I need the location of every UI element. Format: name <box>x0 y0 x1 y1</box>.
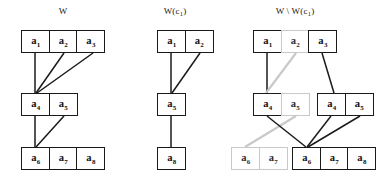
node-cell-subscript: 1 <box>37 41 41 49</box>
node-cell-label: a1 <box>31 36 40 47</box>
node-cell-label: a1 <box>263 36 272 47</box>
node-cell-a5[interactable]: a5 <box>281 93 310 116</box>
node-cell-a1[interactable]: a1 <box>157 30 186 53</box>
panel-title-w: W <box>0 6 126 16</box>
node-group-d-top: a1a2a3 <box>253 30 337 53</box>
node-cell-subscript: 3 <box>324 41 328 49</box>
node-group-d-bot-left: a6a7 <box>231 147 288 170</box>
node-cell-a2[interactable]: a2 <box>49 30 78 53</box>
node-cell-subscript: 8 <box>363 158 367 166</box>
node-cell-a3[interactable]: a3 <box>308 30 337 53</box>
node-group-d-mid-left: a4a5 <box>253 93 310 116</box>
node-cell-a6[interactable]: a6 <box>292 147 321 170</box>
node-cell-subscript: 4 <box>37 104 41 112</box>
node-cell-label: a7 <box>59 153 68 164</box>
panel-title-wc1-sub: 1 <box>180 10 183 17</box>
node-cell-a7[interactable]: a7 <box>259 147 288 170</box>
edge-a5-left-to-a6-left <box>245 116 296 147</box>
node-cell-a5[interactable]: a5 <box>345 93 374 116</box>
node-cell-subscript: 4 <box>333 104 337 112</box>
node-cell-subscript: 5 <box>173 104 177 112</box>
node-cell-a6[interactable]: a6 <box>21 147 50 170</box>
edge-a4-left-to-a6-right <box>267 116 306 147</box>
edge-a2-to-a4-left <box>266 53 296 93</box>
node-cell-a4[interactable]: a4 <box>253 93 282 116</box>
node-cell-label: a2 <box>291 36 300 47</box>
node-cell-a7[interactable]: a7 <box>320 147 349 170</box>
node-cell-label: a1 <box>167 36 176 47</box>
node-cell-subscript: 5 <box>296 104 300 112</box>
node-cell-a2[interactable]: a2 <box>281 30 310 53</box>
lattice-diagram-figure: W W(c1) W \ W(c1) a1a2a3a4a5a6a7a8a1a2a5… <box>0 0 390 186</box>
edge-a3-to-a4-right <box>322 53 334 93</box>
node-cell-a4[interactable]: a4 <box>21 93 50 116</box>
node-cell-a7[interactable]: a7 <box>49 147 78 170</box>
node-cell-a8[interactable]: a8 <box>76 147 105 170</box>
node-cell-label: a2 <box>195 36 204 47</box>
edge-a3-to-a4 <box>37 53 93 93</box>
node-cell-label: a5 <box>291 99 300 110</box>
node-cell-a6[interactable]: a6 <box>231 147 260 170</box>
node-group-wc-top: a1a2 <box>157 30 214 53</box>
node-cell-a3[interactable]: a3 <box>76 30 105 53</box>
node-group-w-bot: a6a7a8 <box>21 147 105 170</box>
node-group-wc-bot: a8 <box>157 147 186 170</box>
node-cell-label: a4 <box>263 99 272 110</box>
node-cell-label: a7 <box>269 153 278 164</box>
node-cell-subscript: 5 <box>64 104 68 112</box>
node-cell-subscript: 2 <box>296 41 300 49</box>
node-cell-a4[interactable]: a4 <box>317 93 346 116</box>
node-cell-a2[interactable]: a2 <box>185 30 214 53</box>
panel-title-w-minus-wc1: W \ W(c1) <box>235 6 355 16</box>
node-cell-subscript: 6 <box>308 158 312 166</box>
node-group-w-mid: a4a5 <box>21 93 78 116</box>
node-cell-label: a5 <box>167 99 176 110</box>
node-group-d-mid-right: a4a5 <box>317 93 374 116</box>
panel-title-diff-tail: ) <box>311 6 314 16</box>
node-cell-label: a5 <box>59 99 68 110</box>
node-cell-a8[interactable]: a8 <box>157 147 186 170</box>
node-cell-label: a3 <box>318 36 327 47</box>
node-cell-label: a6 <box>302 153 311 164</box>
node-cell-label: a8 <box>357 153 366 164</box>
node-cell-subscript: 7 <box>274 158 278 166</box>
node-cell-label: a4 <box>31 99 40 110</box>
edge-a2-to-a4 <box>36 53 64 93</box>
node-cell-subscript: 1 <box>269 41 273 49</box>
node-cell-subscript: 6 <box>37 158 41 166</box>
node-cell-subscript: 4 <box>269 104 273 112</box>
node-cell-label: a8 <box>86 153 95 164</box>
node-group-d-bot-right: a6a7a8 <box>292 147 376 170</box>
node-cell-subscript: 5 <box>360 104 364 112</box>
node-cell-a5[interactable]: a5 <box>49 93 78 116</box>
panel-title-wc1-base: W(c <box>164 6 180 16</box>
edge-a2-to-a5 <box>172 53 200 93</box>
panel-title-diff-base: W \ W(c <box>276 6 308 16</box>
node-cell-subscript: 1 <box>173 41 177 49</box>
node-cell-subscript: 6 <box>247 158 251 166</box>
node-cell-subscript: 8 <box>173 158 177 166</box>
panel-title-wc1-tail: ) <box>183 6 186 16</box>
edge-a5-right-to-a6-right <box>308 116 360 147</box>
node-cell-a1[interactable]: a1 <box>253 30 282 53</box>
node-cell-a1[interactable]: a1 <box>21 30 50 53</box>
panel-title-diff-sub: 1 <box>308 10 311 17</box>
node-cell-a8[interactable]: a8 <box>347 147 376 170</box>
node-cell-label: a5 <box>355 99 364 110</box>
panel-title-wc1: W(c1) <box>120 6 230 16</box>
node-group-w-top: a1a2a3 <box>21 30 105 53</box>
edge-a5-to-a6 <box>36 116 64 147</box>
node-cell-label: a4 <box>327 99 336 110</box>
node-cell-subscript: 8 <box>92 158 96 166</box>
panel-title-w-text: W <box>59 6 68 16</box>
edge-a4-right-to-a6-right <box>307 116 331 147</box>
node-cell-label: a7 <box>330 153 339 164</box>
node-cell-label: a2 <box>59 36 68 47</box>
node-cell-label: a6 <box>31 153 40 164</box>
node-cell-subscript: 7 <box>335 158 339 166</box>
node-cell-label: a6 <box>241 153 250 164</box>
node-cell-subscript: 2 <box>200 41 204 49</box>
node-cell-a5[interactable]: a5 <box>157 93 186 116</box>
node-cell-subscript: 7 <box>64 158 68 166</box>
node-cell-label: a8 <box>167 153 176 164</box>
